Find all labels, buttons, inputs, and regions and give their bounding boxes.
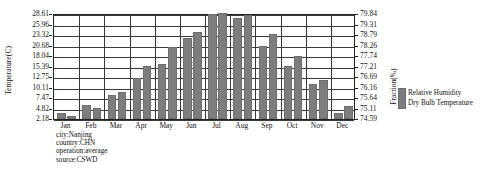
legend-label: Dry Bulb Temperature (408, 98, 473, 108)
annotation-line: source:CSWD (56, 156, 107, 164)
bar-relative-humidity (183, 38, 192, 119)
bar-dry-bulb-temperature (269, 34, 278, 120)
y-tick-mark-right (355, 25, 358, 26)
y-tick-mark-right (355, 35, 358, 36)
legend-item-dry-bulb-temperature: Dry Bulb Temperature (398, 98, 496, 108)
y-tick-label-right: 78.79 (360, 31, 377, 39)
y-tick-label-right: 76.16 (360, 84, 377, 92)
y-tick-mark-left (49, 46, 52, 47)
bar-relative-humidity (57, 113, 66, 119)
y-axis-left-ticks: 28.6125.9623.3220.6818.0415.3912.7510.11… (0, 0, 52, 134)
bar-group (255, 15, 280, 119)
bar-dry-bulb-temperature (143, 66, 152, 119)
bar-dry-bulb-temperature (193, 32, 202, 120)
y-tick-label-left: 18.04 (32, 52, 49, 60)
x-tick-label: May (159, 121, 173, 130)
y-tick-label-right: 78.26 (360, 42, 377, 50)
y-tick-mark-right (355, 67, 358, 68)
bar-relative-humidity (233, 18, 242, 119)
y-tick-mark-left (49, 77, 52, 78)
x-tick-label: Mar (110, 121, 123, 130)
y-tick-label-left: 4.82 (36, 105, 49, 113)
chart-root: Temperature(C) 28.6125.9623.3220.6818.04… (0, 0, 498, 170)
y-tick-label-left: 23.32 (32, 31, 49, 39)
y-tick-label-right: 79.84 (360, 10, 377, 18)
bar-series-container (54, 15, 354, 119)
y-tick-label-left: 12.75 (32, 73, 49, 81)
y-tick-mark-left (49, 98, 52, 99)
x-tick-label: Oct (287, 121, 298, 130)
y-tick-label-right: 74.59 (360, 115, 377, 123)
y-tick-mark-left (49, 14, 52, 15)
x-tick-label: Jan (61, 121, 71, 130)
bar-group (79, 15, 104, 119)
bar-dry-bulb-temperature (118, 92, 127, 119)
bar-group (306, 15, 331, 119)
y-tick-mark-right (355, 46, 358, 47)
y-tick-mark-left (49, 35, 52, 36)
y-tick-mark-left (49, 119, 52, 120)
y-tick-label-left: 15.39 (32, 63, 49, 71)
legend-item-relative-humidity: Relative Humidity (398, 88, 496, 98)
bar-relative-humidity (108, 95, 117, 119)
bar-relative-humidity (82, 105, 91, 119)
bar-group (205, 15, 230, 119)
x-tick-label: Aug (235, 121, 248, 130)
x-tick-label: Dec (336, 121, 348, 130)
y-tick-label-left: 25.96 (32, 21, 49, 29)
bar-relative-humidity (334, 113, 343, 119)
bar-relative-humidity (309, 84, 318, 119)
y-tick-label-right: 76.69 (360, 73, 377, 81)
y-tick-label-left: 20.68 (32, 42, 49, 50)
bar-dry-bulb-temperature (319, 80, 328, 119)
bar-dry-bulb-temperature (168, 47, 177, 119)
x-tick-label: Sep (261, 121, 272, 130)
bar-relative-humidity (208, 14, 217, 119)
x-tick-label: Apr (135, 121, 147, 130)
x-tick-label: Jun (186, 121, 196, 130)
y-tick-label-left: 2.18 (36, 115, 49, 123)
chart-annotations: city:Nanjingcountry:CHNoperation:average… (56, 131, 107, 164)
chart-legend: Relative Humidity Dry Bulb Temperature (398, 88, 496, 108)
x-tick-label: Jul (212, 121, 221, 130)
bar-dry-bulb-temperature (67, 116, 76, 119)
y-tick-mark-left (49, 25, 52, 26)
bar-group (331, 15, 356, 119)
legend-label: Relative Humidity (408, 88, 461, 98)
y-tick-mark-left (49, 56, 52, 57)
y-tick-mark-right (355, 77, 358, 78)
y-tick-label-left: 7.47 (36, 94, 49, 102)
y-tick-label-right: 77.74 (360, 52, 377, 60)
bar-dry-bulb-temperature (218, 13, 227, 119)
bar-group (54, 15, 79, 119)
annotation-line: country:CHN (56, 139, 107, 147)
bar-group (130, 15, 155, 119)
y-tick-mark-left (49, 67, 52, 68)
y-tick-label-right: 75.64 (360, 94, 377, 102)
y-tick-label-left: 28.61 (32, 10, 49, 18)
bar-relative-humidity (284, 66, 293, 119)
y-tick-label-right: 77.21 (360, 63, 377, 71)
bar-group (155, 15, 180, 119)
bar-group (104, 15, 129, 119)
bar-relative-humidity (133, 78, 142, 119)
bar-dry-bulb-temperature (93, 108, 102, 119)
bar-dry-bulb-temperature (244, 15, 253, 119)
annotation-line: city:Nanjing (56, 131, 107, 139)
bar-group (281, 15, 306, 119)
x-tick-label: Nov (311, 121, 324, 130)
plot-area (53, 14, 355, 120)
bar-group (230, 15, 255, 119)
y-tick-mark-right (355, 109, 358, 110)
y-tick-label-right: 75.11 (360, 105, 377, 113)
y-tick-mark-right (355, 119, 358, 120)
y-tick-mark-right (355, 56, 358, 57)
y-tick-mark-right (355, 98, 358, 99)
y-tick-mark-left (49, 109, 52, 110)
bar-dry-bulb-temperature (344, 106, 353, 119)
y-tick-mark-right (355, 14, 358, 15)
y-tick-label-left: 10.11 (32, 84, 49, 92)
y-tick-label-right: 79.31 (360, 21, 377, 29)
x-tick-label: Feb (85, 121, 96, 130)
bar-dry-bulb-temperature (294, 56, 303, 119)
